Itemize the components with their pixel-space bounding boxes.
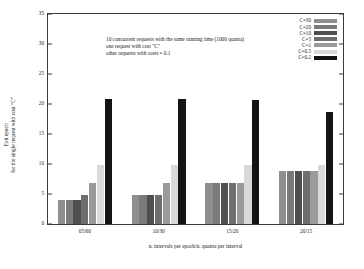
bar	[147, 195, 154, 224]
y-axis-title: Exit epoch for the single request with c…	[3, 97, 17, 173]
y-axis-tick-mark-right	[339, 194, 343, 195]
y-axis-tick-label: 10	[39, 161, 44, 166]
x-axis-tick-label: 20/15	[300, 229, 312, 234]
bar	[221, 183, 228, 224]
bar	[73, 200, 80, 224]
y-axis-tick-mark-right	[339, 14, 343, 15]
bar	[66, 200, 73, 224]
y-axis-tick-mark	[48, 224, 52, 225]
x-axis-tick-label: 10/30	[152, 229, 164, 234]
bar	[279, 171, 286, 224]
legend-item: C=0.2	[298, 55, 337, 61]
x-axis-tick-label: 05/60	[79, 229, 91, 234]
bar	[97, 165, 104, 224]
legend-item-label: C=0.2	[298, 55, 311, 60]
y-axis-title-line-1: Exit epoch	[3, 97, 10, 173]
bar	[252, 100, 259, 224]
y-axis-tick-label: 15	[39, 131, 44, 136]
plot-area: 05101520253035 05/6010/3015/2020/15 10 c…	[47, 13, 344, 225]
bar	[81, 195, 88, 224]
y-axis-tick-label: 25	[39, 71, 44, 76]
y-axis-tick-mark	[48, 104, 52, 105]
x-axis-tick-label: 15/20	[226, 229, 238, 234]
y-axis-tick-label: 0	[41, 221, 44, 226]
y-axis-tick-label: 30	[39, 41, 44, 46]
legend-item-label: C=30	[299, 18, 311, 23]
y-axis-tick-mark	[48, 164, 52, 165]
bar	[326, 112, 333, 224]
bar	[295, 171, 302, 224]
chart-root: Exit epoch for the single request with c…	[0, 0, 364, 269]
y-axis-tick-mark	[48, 194, 52, 195]
bar	[89, 183, 96, 224]
y-axis-tick-label: 35	[39, 11, 44, 16]
y-axis-tick-mark	[48, 14, 52, 15]
legend-item-swatch	[314, 31, 337, 35]
legend-item-swatch	[314, 56, 337, 60]
legend-item-swatch	[314, 43, 337, 47]
bar	[105, 99, 112, 224]
legend-item-swatch	[314, 25, 337, 29]
y-axis-tick-label: 5	[41, 191, 44, 196]
bar	[163, 183, 170, 224]
y-axis-tick-mark-right	[339, 44, 343, 45]
annotation-line-1: 10 concurrent requests with the same run…	[106, 36, 244, 43]
annotation-text: 10 concurrent requests with the same run…	[106, 36, 244, 58]
legend-item-label: C=20	[299, 25, 311, 30]
annotation-line-3: other requests with costs = 0.1	[106, 50, 244, 57]
y-axis-tick-mark	[48, 74, 52, 75]
annotation-line-2: one request with cost "C"	[106, 43, 244, 50]
bar	[287, 171, 294, 224]
bar	[139, 195, 146, 224]
bar	[58, 200, 65, 224]
bar	[213, 183, 220, 224]
bar	[229, 183, 236, 224]
y-axis-title-line-2: for the single request with cost "C"	[10, 97, 17, 173]
bar	[178, 99, 185, 224]
legend-item-swatch	[314, 50, 337, 54]
y-axis-tick-mark-right	[339, 74, 343, 75]
y-axis-tick-mark-right	[339, 134, 343, 135]
y-axis-tick-mark-right	[339, 224, 343, 225]
legend: C=30C=20C=10C=5C=1C=0.5C=0.2	[298, 18, 337, 61]
bar	[310, 171, 317, 224]
x-axis-title: n. intervals per epoch/n. quanta per int…	[47, 243, 344, 249]
bar	[132, 195, 139, 224]
legend-item-swatch	[314, 19, 337, 23]
bar	[205, 183, 212, 224]
bar	[303, 171, 310, 224]
bar	[155, 195, 162, 224]
legend-item-swatch	[314, 37, 337, 41]
y-axis-tick-mark	[48, 44, 52, 45]
bar	[318, 165, 325, 224]
y-axis-tick-mark	[48, 134, 52, 135]
y-axis-tick-mark-right	[339, 104, 343, 105]
bar	[171, 165, 178, 224]
bar	[237, 183, 244, 224]
y-axis-tick-mark-right	[339, 164, 343, 165]
y-axis-tick-label: 20	[39, 101, 44, 106]
bar	[244, 165, 251, 224]
